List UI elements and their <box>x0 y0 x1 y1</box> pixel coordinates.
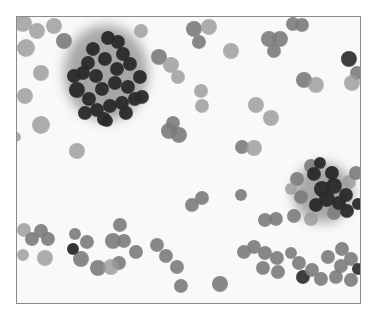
cell <box>295 18 309 32</box>
cell <box>269 212 283 226</box>
cell <box>248 97 264 113</box>
cell <box>223 43 239 59</box>
cell <box>41 232 55 246</box>
cell <box>314 272 328 286</box>
dark-nucleus <box>98 52 112 66</box>
dark-nucleus <box>135 90 149 104</box>
cell <box>37 250 53 266</box>
cell <box>134 24 148 38</box>
dark-nucleus <box>307 167 321 181</box>
cell <box>33 65 49 81</box>
cell <box>285 183 297 195</box>
dark-nucleus <box>67 69 81 83</box>
cell <box>159 249 173 263</box>
cell <box>69 228 81 240</box>
dark-nucleus <box>108 76 122 90</box>
cell <box>246 140 262 156</box>
dark-nucleus <box>309 198 323 212</box>
cell <box>17 39 35 57</box>
cell <box>113 218 127 232</box>
cell <box>270 251 284 265</box>
cell <box>329 270 343 284</box>
dark-nucleus <box>89 69 103 83</box>
cell <box>267 44 281 58</box>
cell <box>17 249 29 261</box>
cell <box>344 273 358 287</box>
dark-nucleus <box>314 157 326 169</box>
cell <box>235 189 247 201</box>
dark-nucleus <box>101 115 113 127</box>
dark-nucleus <box>110 62 124 76</box>
cell <box>170 260 184 274</box>
cell <box>29 23 45 39</box>
cell <box>271 265 285 279</box>
dark-nucleus <box>339 188 353 202</box>
cell <box>256 261 270 275</box>
micrograph-frame <box>16 16 361 304</box>
cell <box>16 132 21 142</box>
cell <box>287 209 301 223</box>
dark-nucleus <box>78 106 92 120</box>
cell <box>56 33 72 49</box>
cell <box>341 51 357 67</box>
dark-nucleus <box>325 166 339 180</box>
cell <box>195 191 209 205</box>
cell <box>17 88 33 104</box>
cell <box>321 250 335 264</box>
cell <box>195 99 209 113</box>
cell <box>32 116 50 134</box>
cell <box>352 263 361 275</box>
cell <box>308 77 324 93</box>
cell <box>117 234 131 248</box>
dark-nucleus <box>95 82 109 96</box>
cell <box>292 256 306 270</box>
cell <box>69 143 85 159</box>
cell <box>129 245 143 259</box>
cell <box>166 116 180 130</box>
cell <box>304 212 318 226</box>
cell <box>344 75 360 91</box>
cell <box>212 276 228 292</box>
dark-nucleus <box>352 198 361 210</box>
dark-nucleus <box>119 106 133 120</box>
dark-nucleus <box>133 70 147 84</box>
cell <box>80 235 94 249</box>
cell <box>103 259 119 275</box>
cell <box>194 84 208 98</box>
cell <box>201 19 217 35</box>
dark-nucleus <box>67 243 79 255</box>
dark-nucleus <box>86 42 100 56</box>
cell <box>349 166 361 180</box>
dark-nucleus <box>123 57 137 71</box>
cell <box>171 70 185 84</box>
cell <box>192 35 206 49</box>
cell <box>174 279 188 293</box>
cell <box>263 110 279 126</box>
cell <box>46 18 62 34</box>
